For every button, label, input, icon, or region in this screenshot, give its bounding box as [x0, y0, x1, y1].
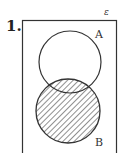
set-b-label: B	[95, 136, 103, 149]
set-b-circle	[36, 79, 100, 143]
venn-diagram	[0, 0, 125, 153]
set-a-label: A	[95, 28, 103, 41]
